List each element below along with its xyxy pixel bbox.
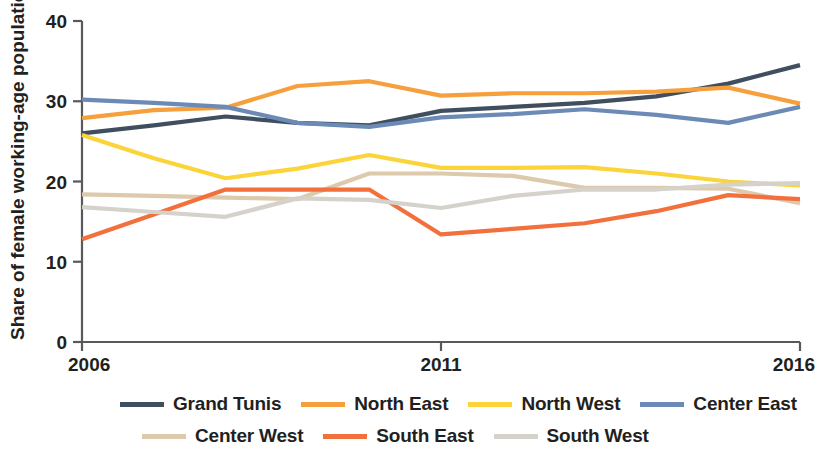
legend-item-label: North West <box>521 393 620 415</box>
chart-plot-area: Share of female working-age population (… <box>0 0 823 385</box>
axis-lines <box>82 21 800 342</box>
x-tick-label: 2011 <box>420 354 462 375</box>
y-tick-label: 40 <box>46 11 67 32</box>
legend-item[interactable]: North West <box>468 393 620 415</box>
y-axis-ticks: 010203040 <box>46 11 82 353</box>
y-tick-label: 20 <box>46 172 67 193</box>
legend-color-swatch <box>142 434 186 439</box>
legend-color-swatch <box>494 434 538 439</box>
legend-row-secondary: Center WestSouth EastSouth West <box>120 420 783 452</box>
y-axis-title-group: Share of female working-age population (… <box>7 0 28 340</box>
y-tick-label: 30 <box>46 91 67 112</box>
legend-color-swatch <box>640 402 684 407</box>
y-tick-label: 10 <box>46 252 67 273</box>
y-tick-label: 0 <box>56 332 67 353</box>
legend-item[interactable]: South East <box>323 425 473 447</box>
chart-svg: Share of female working-age population (… <box>0 0 823 385</box>
legend-item[interactable]: South West <box>494 425 649 447</box>
x-tick-label: 2006 <box>68 354 110 375</box>
legend-color-swatch <box>323 434 367 439</box>
legend-item[interactable]: Grand Tunis <box>120 393 281 415</box>
legend-item-label: Center East <box>693 393 796 415</box>
legend-item-label: North East <box>354 393 448 415</box>
legend-item-label: Center West <box>195 425 303 447</box>
legend-color-swatch <box>468 402 512 407</box>
series-line <box>82 135 800 186</box>
legend-item[interactable]: Center East <box>640 393 796 415</box>
legend-item[interactable]: North East <box>301 393 448 415</box>
x-tick-label: 2016 <box>773 354 815 375</box>
data-series-group <box>82 65 800 239</box>
legend-color-swatch <box>120 402 164 407</box>
line-chart-figure: Share of female working-age population (… <box>0 0 823 453</box>
legend-color-swatch <box>301 402 345 407</box>
chart-legend: Grand TunisNorth EastNorth WestCenter Ea… <box>0 388 823 453</box>
legend-item-label: South West <box>547 425 649 447</box>
legend-row-primary: Grand TunisNorth EastNorth WestCenter Ea… <box>120 388 783 420</box>
legend-item[interactable]: Center West <box>142 425 303 447</box>
legend-item-label: South East <box>376 425 473 447</box>
series-line <box>82 65 800 133</box>
legend-item-label: Grand Tunis <box>173 393 281 415</box>
y-axis-title: Share of female working-age population (… <box>7 0 28 340</box>
x-axis-ticks: 200620112016 <box>68 342 815 375</box>
